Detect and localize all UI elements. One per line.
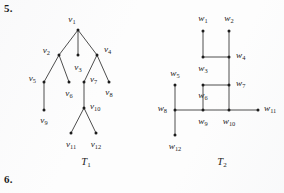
vertex-w3 [202, 56, 205, 59]
graph-theory-figure: v1v2v3v4v5v6v7v8v9v10v11v12 T1 w1w2w3w4w… [0, 0, 284, 193]
figure-caption-T2: T2 [217, 156, 227, 169]
vertex-label-w10: w10 [223, 116, 236, 127]
vertex-w1 [202, 30, 205, 33]
edge-v1-v4 [78, 30, 97, 55]
vertex-w7 [228, 84, 231, 87]
vertex-label-w2: w2 [224, 13, 233, 24]
T2-edges [175, 31, 258, 135]
edge-v4-v8 [97, 55, 109, 82]
vertex-label-w5: w5 [170, 68, 179, 79]
vertex-label-v10: v10 [90, 101, 100, 112]
edge-v2-v6 [59, 55, 69, 82]
vertex-w5 [174, 84, 177, 87]
vertex-label-v2: v2 [43, 45, 50, 56]
vertex-v10 [83, 107, 86, 110]
T2-nodes [174, 30, 260, 137]
vertex-v1 [77, 29, 80, 32]
vertex-v6 [68, 81, 71, 84]
vertex-label-w12: w12 [169, 141, 182, 152]
vertex-label-w11: w11 [264, 103, 276, 114]
vertex-label-w9: w9 [198, 116, 207, 127]
figure-T2: w1w2w3w4w5w6w7w8w9w10w11w12 T2 [158, 13, 277, 169]
scanned-page: 5. 6. v1v2v3v4v5v6v7v8v9v10v11v12 T1 w1w… [0, 0, 284, 193]
vertex-label-w3: w3 [198, 63, 207, 74]
vertex-label-w1: w1 [198, 13, 207, 24]
vertex-v7 [83, 81, 86, 84]
T2-labels: w1w2w3w4w5w6w7w8w9w10w11w12 [158, 13, 277, 152]
vertex-w8 [174, 109, 177, 112]
vertex-w2 [228, 30, 231, 33]
vertex-w4 [228, 56, 231, 59]
T1-nodes [43, 29, 111, 135]
vertex-label-w6: w6 [198, 90, 207, 101]
figure-T1: v1v2v3v4v5v6v7v8v9v10v11v12 T1 [29, 14, 113, 169]
vertex-label-v9: v9 [40, 115, 47, 126]
vertex-label-v8: v8 [105, 87, 112, 98]
vertex-label-v11: v11 [66, 139, 76, 150]
vertex-label-w8: w8 [158, 103, 167, 114]
vertex-label-v4: v4 [104, 44, 112, 55]
figure-caption-T1: T1 [81, 156, 91, 169]
edge-v2-v5 [44, 55, 59, 82]
vertex-v3 [77, 54, 80, 57]
vertex-v2 [58, 54, 61, 57]
vertex-v12 [95, 132, 98, 135]
T1-caption: T1 [81, 156, 91, 169]
vertex-v9 [43, 109, 46, 112]
vertex-w11 [257, 109, 260, 112]
vertex-label-w7: w7 [236, 78, 246, 89]
edge-v1-v2 [59, 30, 78, 55]
vertex-v11 [70, 132, 73, 135]
vertex-label-v3: v3 [74, 62, 81, 73]
vertex-v4 [96, 54, 99, 57]
vertex-label-w4: w4 [236, 50, 246, 61]
vertex-w12 [174, 134, 177, 137]
vertex-w10 [228, 109, 231, 112]
T1-labels: v1v2v3v4v5v6v7v8v9v10v11v12 [29, 14, 113, 150]
vertex-label-v7: v7 [90, 74, 98, 85]
edge-v10-v11 [71, 108, 84, 133]
vertex-w6 [202, 84, 205, 87]
vertex-label-v6: v6 [65, 88, 72, 99]
T2-caption: T2 [217, 156, 227, 169]
T1-edges [44, 30, 109, 133]
vertex-label-v1: v1 [68, 14, 75, 25]
vertex-v5 [43, 81, 46, 84]
vertex-label-v5: v5 [29, 73, 36, 84]
vertex-w9 [202, 109, 205, 112]
vertex-label-v12: v12 [91, 139, 101, 150]
vertex-v8 [108, 81, 111, 84]
